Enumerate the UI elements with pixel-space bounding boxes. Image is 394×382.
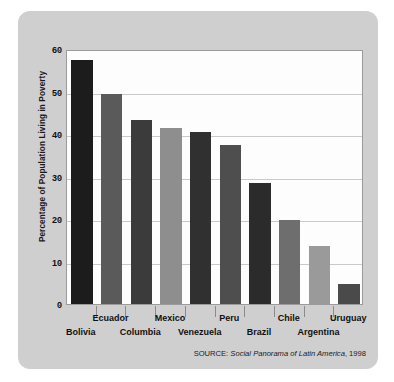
x-tick-label-peru: Peru — [219, 313, 239, 323]
y-tick-mark — [58, 178, 62, 179]
plot-area — [66, 50, 363, 305]
bar-uruguay[interactable] — [338, 284, 359, 304]
y-tick-mark — [58, 305, 62, 306]
bar-venezuela[interactable] — [190, 132, 211, 304]
bar-chile[interactable] — [279, 220, 300, 304]
y-tick-mark — [58, 135, 62, 136]
x-tick-label-brazil: Brazil — [247, 327, 272, 337]
x-tick-mark — [215, 306, 216, 317]
x-tick-label-chile: Chile — [278, 313, 300, 323]
x-tick-label-uruguay: Uruguay — [330, 313, 367, 323]
x-tick-label-ecuador: Ecuador — [93, 313, 129, 323]
x-tick-label-argentina: Argentina — [297, 327, 339, 337]
y-tick-mark — [58, 50, 62, 51]
source-title: Social Panorama of Latin America — [230, 349, 345, 358]
x-tick-mark — [274, 306, 275, 317]
bar-peru[interactable] — [220, 145, 241, 304]
bar-argentina[interactable] — [309, 246, 330, 304]
source-note: SOURCE: Social Panorama of Latin America… — [194, 349, 366, 358]
x-tick-mark — [244, 306, 245, 317]
y-tick-mark — [58, 93, 62, 94]
bar-ecuador[interactable] — [101, 94, 122, 304]
x-tick-label-venezuela: Venezuela — [178, 327, 222, 337]
y-tick-mark — [58, 220, 62, 221]
bar-bolivia[interactable] — [71, 60, 92, 304]
bar-series — [67, 51, 362, 304]
y-axis-ticks: 0102030405060 — [36, 50, 62, 305]
source-prefix: SOURCE: — [194, 349, 231, 358]
chart-figure: Percentage of Population Living in Pover… — [0, 0, 394, 382]
bar-brazil[interactable] — [249, 183, 270, 304]
y-tick-mark — [58, 263, 62, 264]
x-tick-mark — [304, 306, 305, 317]
x-tick-label-mexico: Mexico — [155, 313, 186, 323]
bar-columbia[interactable] — [131, 120, 152, 304]
source-suffix: , 1998 — [345, 349, 366, 358]
bar-mexico[interactable] — [160, 128, 181, 304]
x-tick-label-columbia: Columbia — [120, 327, 161, 337]
x-tick-label-bolivia: Bolivia — [66, 327, 96, 337]
